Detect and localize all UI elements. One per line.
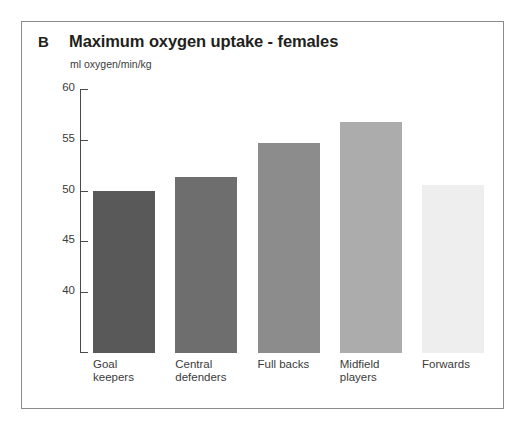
x-axis-label: Midfield players: [340, 358, 428, 383]
x-axis-label: Full backs: [258, 358, 346, 371]
bar: [93, 191, 155, 353]
y-tick-label: 55: [62, 132, 75, 144]
y-tick-label: 40: [62, 284, 75, 296]
axis-baseline-tick: [80, 352, 88, 353]
y-tick-label: 60: [62, 81, 75, 93]
x-axis-label: Goal keepers: [93, 358, 181, 383]
y-tick-label: 50: [62, 183, 75, 195]
y-tick-label: 45: [62, 233, 75, 245]
x-axis-label: Forwards: [422, 358, 510, 371]
bar: [258, 143, 320, 353]
panel-letter: B: [38, 33, 49, 50]
bar-series: Goal keepersCentral defendersFull backsM…: [80, 89, 484, 353]
bar: [340, 122, 402, 354]
x-axis-label: Central defenders: [175, 358, 263, 383]
figure-panel: B Maximum oxygen uptake - females ml oxy…: [21, 21, 504, 409]
plot-area: 4045505560 Goal keepersCentral defenders…: [80, 89, 484, 353]
bar: [175, 177, 237, 353]
chart-title: Maximum oxygen uptake - females: [69, 32, 338, 51]
bar: [422, 185, 484, 353]
y-axis-unit-label: ml oxygen/min/kg: [70, 58, 152, 70]
